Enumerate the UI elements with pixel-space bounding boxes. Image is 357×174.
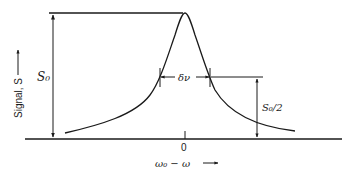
width-label: δν (178, 72, 190, 83)
peak-height-label: S₀ (37, 70, 50, 84)
y-axis-label: Signal, S (13, 78, 24, 118)
origin-label: 0 (181, 142, 187, 153)
x-axis-label: ω₀ − ω (155, 158, 190, 169)
half-height-label: S₀/2 (262, 102, 283, 113)
lineshape-diagram: S₀ δν S₀/2 0 ω₀ − ω Signal, S (0, 0, 357, 174)
